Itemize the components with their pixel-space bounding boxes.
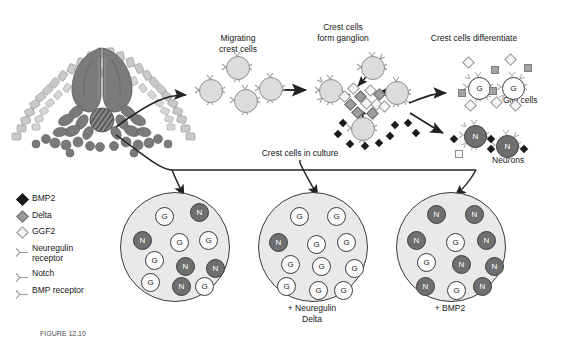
glia-cell: G [281,255,300,274]
neuron-cell: N [452,255,471,274]
legend-item-bmp-receptor: BMP receptor [14,285,119,296]
white-diamond-icon [14,226,32,237]
glia-cell: G [195,277,214,296]
neuron-cell: N [473,277,492,296]
bmp-receptor-marker [455,150,463,158]
neuron-cell: N [477,231,496,250]
glia-cell: G [327,207,346,226]
neuron-cell: N [496,135,519,158]
legend-item-ggf2: GGF2 [14,226,119,237]
glia-cell: G [312,257,331,276]
neuron-cell: N [269,233,288,252]
neuron-cell: N [407,231,426,250]
glia-cell: G [155,207,174,226]
figure-canvas: Migrating crest cells Crest cells form g… [0,0,567,338]
neuron-cell: N [464,125,487,148]
dish-label-bmp2: + BMP2 [435,303,465,314]
glia-cell: G [277,277,296,296]
glia-cell: G [417,253,436,272]
gray-diamond-icon [14,210,32,221]
control-dish: GNNGGGNNGNG [120,192,230,302]
bmp2-dish: NNNGNGNNNGN [396,192,506,302]
receptor-icon [14,268,32,279]
glia-cell: G [345,259,364,278]
glia-cell: G [447,281,466,300]
neuron-cell: N [172,277,191,296]
glia-cell: G [309,281,328,300]
glia-cell: G [141,273,160,292]
neuron-cell: N [176,257,195,276]
glia-cell: G [170,233,189,252]
glia-cell: G [199,231,218,250]
neuron-cell: N [427,205,446,224]
neuregulin-delta-dish: GGNGGGGGGGG [258,192,368,302]
glia-cell: G [446,233,465,252]
glia-cell: G [307,235,326,254]
receptor-icon [14,285,32,296]
receptor-icon [14,243,32,254]
legend: BMP2DeltaGGF2Neuregulin receptorNotchBMP… [14,193,119,301]
black-diamond-icon [14,193,32,204]
neuron-cell: N [416,277,435,296]
legend-item-label: GGF2 [32,226,55,236]
glia-cell: G [145,251,164,270]
neuron-cell: N [465,205,484,224]
glia-cell: G [334,281,353,300]
legend-item-notch: Notch [14,268,119,279]
dish-label-neuregulin-delta: + Neuregulin Delta [288,303,336,324]
neuron-cell: N [190,203,209,222]
legend-item-bmp2: BMP2 [14,193,119,204]
legend-item-label: BMP receptor [32,285,84,295]
neuron-cell: N [485,257,504,276]
legend-item-neuregulin-receptor: Neuregulin receptor [14,243,119,263]
glia-cell: G [337,233,356,252]
legend-item-label: Notch [32,268,54,278]
legend-item-label: BMP2 [32,193,55,203]
neuron-cell: N [206,259,225,278]
legend-item-label: Neuregulin receptor [32,243,73,263]
figure-caption: FIGURE 12.10 [40,330,86,338]
legend-item-label: Delta [32,210,52,220]
neuron-cell: N [133,231,152,250]
glia-cell: G [290,207,309,226]
legend-item-delta: Delta [14,210,119,221]
